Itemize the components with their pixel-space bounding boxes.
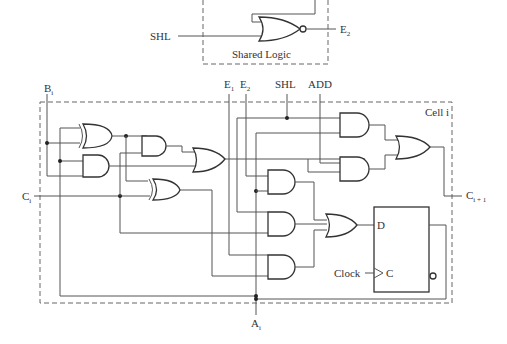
e2-input-label: E2 [240, 78, 251, 93]
wire-and-top2-out [369, 155, 398, 169]
b-label: Bi [44, 82, 53, 97]
junction [45, 141, 49, 145]
and-gate-1 [83, 155, 109, 177]
and-gate-mid-1 [268, 170, 295, 194]
a-label: Ai [251, 317, 261, 332]
or-gate-mid [326, 214, 357, 237]
nor-gate [259, 17, 300, 41]
c-next-label: Ci + 1 [466, 189, 487, 204]
add-input-label: ADD [308, 78, 332, 90]
junction [254, 297, 258, 301]
wire-ci-and [120, 196, 268, 233]
qbar-bubble [430, 273, 436, 279]
junction [58, 159, 62, 163]
and-gate-top-2 [340, 157, 369, 181]
or-gate-1 [193, 148, 225, 172]
junction [285, 116, 289, 120]
wire-or1-add-and [308, 159, 340, 172]
xor-gate-2 [153, 179, 180, 200]
shl-input-label: SHL [275, 78, 296, 90]
wire-mid3-out [295, 230, 327, 267]
xor-gate-1 [83, 124, 112, 148]
wire-bi [47, 94, 83, 176]
or-gate-carry [396, 136, 430, 159]
wire-e2 [246, 94, 268, 176]
c-label: Ci [22, 190, 31, 205]
shared-logic-block: SHL E2 Shared Logic [150, 0, 351, 64]
clock-label: Clock [334, 267, 361, 279]
wire-and2-out [166, 146, 195, 152]
cell-title: Cell i [425, 106, 449, 118]
shl-label: SHL [150, 30, 171, 42]
wire-mid1-out [295, 182, 327, 220]
and-gate-2 [142, 136, 166, 156]
d-label: D [377, 219, 385, 231]
shared-logic-title: Shared Logic [232, 48, 291, 60]
cell-block: Cell i Bi Ci E1 E2 SHL ADD Ci + 1 Ai [22, 78, 487, 332]
c-pin-label: C [386, 267, 393, 279]
circuit-diagram: SHL E2 Shared Logic Cell i Bi Ci E1 E2 S… [0, 0, 507, 344]
xor-back-curve [149, 179, 153, 200]
wire-shl-and [237, 118, 268, 212]
wire-carry-out [430, 147, 462, 196]
e1-label: E1 [224, 78, 235, 93]
wire-add [320, 94, 340, 163]
e2-label: E2 [340, 23, 351, 38]
and-gate-mid-2 [268, 212, 295, 236]
nor-bubble [300, 26, 306, 32]
wire-and-top1-out [369, 125, 398, 140]
and-gate-mid-3 [268, 255, 295, 279]
and-gate-top-1 [340, 113, 369, 137]
